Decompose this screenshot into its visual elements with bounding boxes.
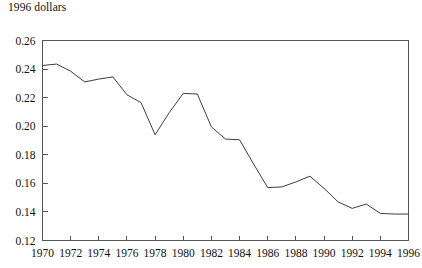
- x-tick-label: 1994: [369, 247, 392, 259]
- x-tick-label: 1990: [313, 247, 336, 259]
- chart-container: 1996 dollars 0.120.140.160.180.200.220.2…: [0, 0, 422, 268]
- data-series-group: [43, 64, 409, 214]
- x-tick-label: 1982: [200, 247, 223, 259]
- x-tick-label: 1974: [87, 247, 110, 259]
- y-tick-label: 0.16: [15, 177, 35, 189]
- x-tick-label: 1972: [59, 247, 82, 259]
- x-tick-label: 1978: [144, 247, 167, 259]
- y-axis-labels: 0.120.140.160.180.200.220.240.26: [15, 35, 35, 247]
- x-tick-label: 1996: [397, 247, 420, 259]
- x-axis-ticks: [71, 236, 381, 241]
- y-tick-label: 0.14: [15, 206, 35, 218]
- x-axis-labels: 1970197219741976197819801982198419861988…: [31, 247, 420, 259]
- y-tick-label: 0.24: [15, 63, 35, 75]
- x-tick-label: 1980: [172, 247, 195, 259]
- y-tick-label: 0.18: [15, 149, 35, 161]
- plot-frame-rect: [43, 41, 409, 241]
- x-tick-label: 1992: [341, 247, 364, 259]
- x-tick-label: 1984: [228, 247, 251, 259]
- x-tick-label: 1986: [256, 247, 279, 259]
- x-tick-label: 1970: [31, 247, 54, 259]
- y-tick-label: 0.12: [15, 235, 35, 247]
- line-chart-plot: 0.120.140.160.180.200.220.240.26 1970197…: [0, 0, 422, 268]
- y-axis-ticks: [43, 69, 48, 212]
- y-tick-label: 0.20: [15, 120, 35, 132]
- y-tick-label: 0.22: [15, 92, 35, 104]
- series-line-1996-dollars: [43, 64, 409, 214]
- x-tick-label: 1976: [115, 247, 138, 259]
- x-tick-label: 1988: [284, 247, 307, 259]
- plot-frame: [43, 41, 409, 241]
- y-tick-label: 0.26: [15, 35, 35, 47]
